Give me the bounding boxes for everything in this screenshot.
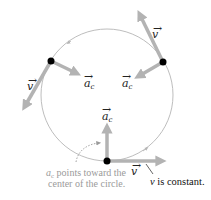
vector-arrow-icon: → <box>102 103 111 116</box>
acceleration-vector-left <box>51 61 76 73</box>
particle-dot-right <box>160 59 167 66</box>
vector-arrow-icon: → <box>122 70 131 83</box>
circular-motion-diagram: v → ac → v → ac → v → ac → ac points tow… <box>0 0 211 200</box>
pointer-line <box>146 164 153 174</box>
ac-note-line2: center of the circle. <box>48 178 125 189</box>
pointer-arrow-icon <box>76 143 99 162</box>
particle-right: v → ac → <box>122 15 167 91</box>
particle-dot-left <box>48 58 55 65</box>
vector-arrow-icon: → <box>153 22 162 35</box>
vector-arrow-icon: → <box>28 74 37 87</box>
vector-arrow-icon: → <box>132 159 141 172</box>
v-constant-note: v is constant. <box>150 176 205 187</box>
acceleration-vector-right <box>139 62 163 76</box>
particle-dot-bottom <box>104 158 111 165</box>
vector-arrow-icon: → <box>84 70 93 83</box>
particle-left: v → ac → <box>25 58 95 107</box>
